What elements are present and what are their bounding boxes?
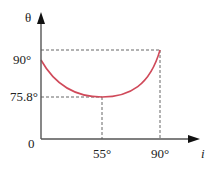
x-axis-arrow-icon bbox=[188, 135, 200, 143]
y-tick-90: 90° bbox=[13, 52, 31, 67]
guide-lines bbox=[41, 50, 160, 139]
theta-curve bbox=[41, 50, 160, 97]
y-tick-min: 75.8° bbox=[10, 89, 38, 104]
origin-label: 0 bbox=[28, 136, 35, 151]
y-axis-arrow-icon bbox=[37, 12, 45, 24]
x-axis-label: i bbox=[201, 146, 205, 161]
x-tick-90: 90° bbox=[151, 146, 169, 161]
chart: θ 90° 75.8° 0 55° 90° i bbox=[0, 0, 220, 169]
axes bbox=[37, 12, 200, 143]
x-tick-55: 55° bbox=[93, 146, 111, 161]
y-axis-label: θ bbox=[25, 10, 31, 25]
